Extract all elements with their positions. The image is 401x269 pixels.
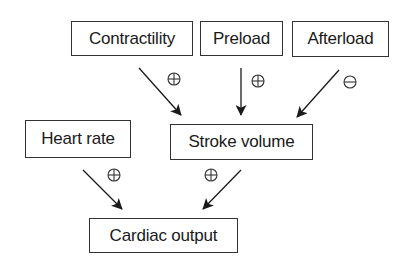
- node-label: Cardiac output: [110, 226, 218, 246]
- node-stroke-volume: Stroke volume: [170, 124, 313, 160]
- node-afterload: Afterload: [292, 21, 389, 57]
- positive-sign-icon: [205, 169, 217, 181]
- node-label: Afterload: [307, 29, 373, 49]
- positive-sign-icon: [168, 73, 180, 85]
- edge-heart-rate-to-cardiac-output: [83, 169, 122, 209]
- arrow-heart-rate-cardiac-output: [83, 170, 122, 209]
- node-label: Preload: [213, 29, 270, 49]
- positive-sign-icon: [108, 169, 120, 181]
- edge-contractility-to-stroke-volume: [139, 68, 181, 115]
- node-label: Stroke volume: [188, 132, 294, 152]
- node-label: Heart rate: [41, 129, 115, 149]
- arrow-afterload-stroke-volume: [297, 70, 339, 117]
- arrow-contractility-stroke-volume: [139, 68, 181, 115]
- edge-preload-to-stroke-volume: [241, 68, 264, 115]
- edge-stroke-volume-to-cardiac-output: [203, 169, 241, 209]
- edge-afterload-to-stroke-volume: [297, 70, 356, 117]
- node-contractility: Contractility: [71, 21, 193, 56]
- positive-sign-icon: [252, 75, 264, 87]
- node-heart-rate: Heart rate: [25, 120, 131, 158]
- node-label: Contractility: [89, 29, 175, 49]
- negative-sign-icon: [344, 76, 356, 88]
- node-cardiac-output: Cardiac output: [89, 218, 238, 253]
- arrow-stroke-volume-cardiac-output: [203, 170, 241, 209]
- node-preload: Preload: [200, 21, 283, 56]
